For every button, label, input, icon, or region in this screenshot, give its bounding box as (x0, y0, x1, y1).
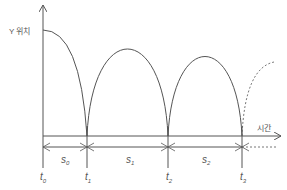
time-label-t2: t2 (166, 171, 173, 184)
time-label-t1: t1 (85, 171, 91, 184)
time-label-t3: t3 (240, 171, 247, 184)
bounce-diagram: Y 위치 시간 s0 s1 s2 t0 t1 t2 t3 (0, 0, 287, 190)
interval-label-s2: s2 (202, 154, 211, 166)
interval-label-s0: s0 (61, 154, 70, 166)
trajectory-arc-0 (43, 30, 87, 136)
interval-label-s1: s1 (126, 154, 134, 166)
y-axis-label: Y 위치 (9, 27, 30, 36)
trajectory-arc-1 (87, 49, 168, 136)
x-axis-label: 시간 (257, 123, 272, 133)
time-label-t0: t0 (40, 171, 47, 184)
trajectory-arc-2 (168, 57, 242, 137)
